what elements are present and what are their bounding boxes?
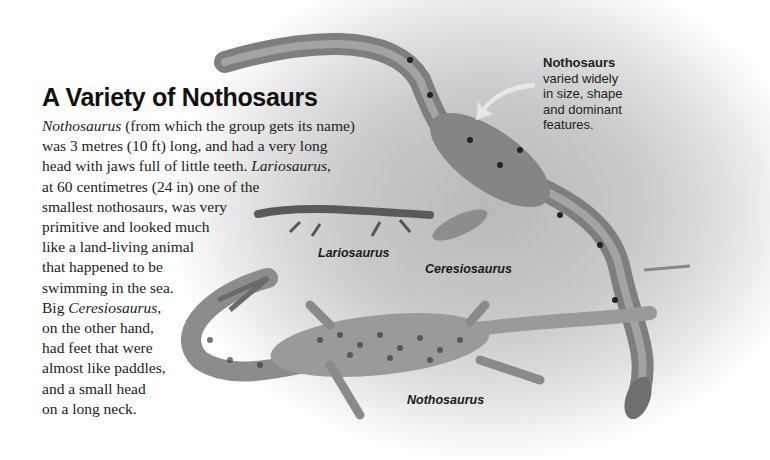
body-text-segment: was 3 metres (10 ft) long, and had a ver… [42,137,327,154]
article-title: A Variety of Nothosaurs [42,83,318,112]
body-line: on the other hand, [42,318,355,338]
body-line: was 3 metres (10 ft) long, and had a ver… [42,136,355,156]
body-line: head with jaws full of little teeth. Lar… [42,156,355,176]
body-text-segment: , [327,157,331,174]
label-lariosaurus: Lariosaurus [318,246,390,260]
body-line: almost like paddles, [42,358,355,378]
body-text-segment: at 60 centimetres (24 in) one of the [42,178,259,195]
body-line: and a small head [42,379,355,399]
body-line: like a land-living animal [42,237,355,257]
callout-box: Nothosaurs varied widely in size, shape … [543,55,623,133]
body-text-segment: on a long neck. [42,400,137,417]
body-text-segment: almost like paddles, [42,359,166,376]
species-name: Nothosaurus [42,117,121,134]
body-line: had feet that were [42,338,355,358]
label-nothosaurus: Nothosaurus [407,393,484,407]
body-line: on a long neck. [42,399,355,419]
body-text-segment: and a small head [42,380,146,397]
callout-heading: Nothosaurs [543,55,623,71]
body-text-segment: (from which the group gets its name) [121,117,355,134]
article-body: Nothosaurus (from which the group gets i… [42,116,355,419]
body-text-segment: Big [42,299,68,316]
body-line: that happened to be [42,257,355,277]
curved-arrow-left-down-icon [476,82,535,120]
body-text-segment: had feet that were [42,339,153,356]
body-text-segment: on the other hand, [42,319,154,336]
body-text-segment: primitive and looked much [42,218,209,235]
species-name: Lariosaurus [251,157,327,174]
body-line: Nothosaurus (from which the group gets i… [42,116,355,136]
body-text-segment: head with jaws full of little teeth. [42,157,251,174]
label-ceresiosaurus: Ceresiosaurus [425,262,512,276]
body-text-segment: , [157,299,161,316]
species-name: Ceresiosaurus [68,299,157,316]
body-line: Big Ceresiosaurus, [42,298,355,318]
body-line: primitive and looked much [42,217,355,237]
callout-line: varied widely [543,71,618,86]
callout-line: and dominant [543,102,622,117]
body-line: swimming in the sea. [42,278,355,298]
body-line: smallest nothosaurs, was very [42,197,355,217]
callout-line: in size, shape [543,86,623,101]
body-text-segment: swimming in the sea. [42,279,174,296]
body-text-segment: that happened to be [42,258,163,275]
callout-line: features. [543,117,594,132]
body-text-segment: smallest nothosaurs, was very [42,198,227,215]
body-line: at 60 centimetres (24 in) one of the [42,177,355,197]
body-text-segment: like a land-living animal [42,238,194,255]
